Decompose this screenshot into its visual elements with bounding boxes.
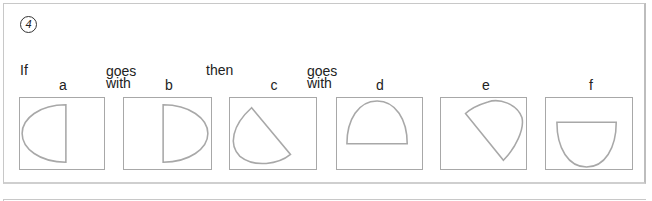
option-f-box[interactable] [545, 97, 633, 170]
label-d: d [370, 77, 390, 93]
half-ellipse-right-icon [124, 98, 211, 169]
option-c-box[interactable] [229, 97, 317, 170]
word-then: then [206, 64, 233, 77]
word-if: If [20, 64, 28, 77]
label-e: e [476, 77, 496, 93]
word-with-2: with [307, 77, 332, 90]
next-question-frame [3, 199, 646, 201]
option-a-box[interactable] [19, 97, 105, 170]
option-b-box[interactable] [123, 97, 212, 170]
label-b: b [159, 77, 179, 93]
half-ellipse-rotated-lower-left-icon [230, 98, 316, 169]
half-ellipse-bottom-icon [546, 98, 632, 169]
label-a: a [53, 77, 73, 93]
option-d-box[interactable] [336, 97, 423, 170]
half-ellipse-rotated-upper-right-icon [441, 98, 526, 169]
label-c: c [264, 77, 284, 93]
label-f: f [581, 77, 601, 93]
half-ellipse-left-icon [20, 98, 104, 169]
half-ellipse-top-icon [337, 98, 422, 169]
question-number-badge: 4 [20, 16, 37, 33]
word-with-1: with [106, 77, 131, 90]
option-e-box[interactable] [440, 97, 527, 170]
